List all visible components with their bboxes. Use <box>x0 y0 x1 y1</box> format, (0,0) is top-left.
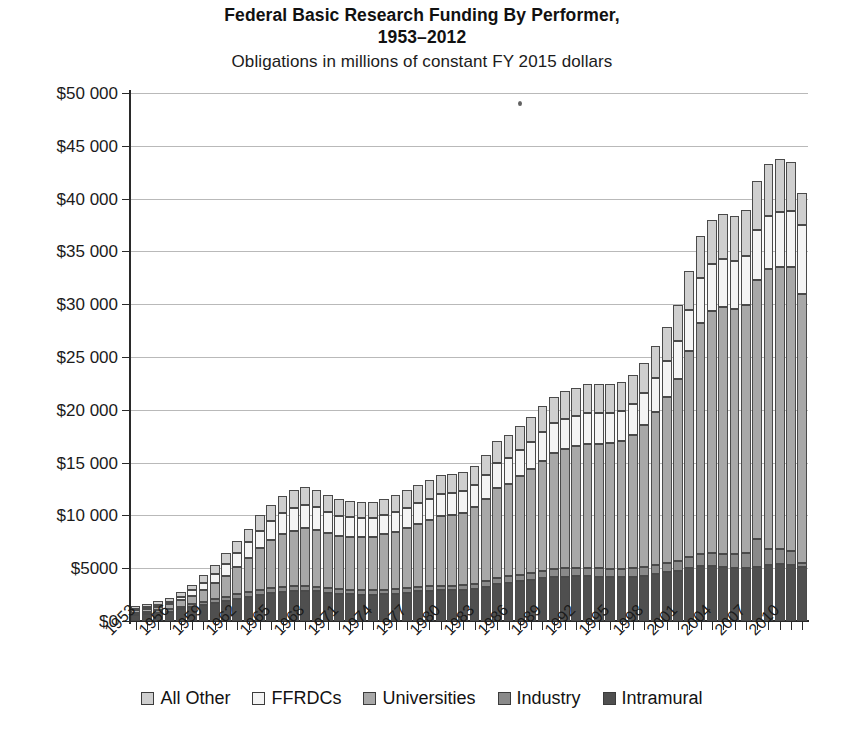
bar-segment-ffrdcs <box>379 515 389 534</box>
bar-column <box>221 93 231 621</box>
bar-segment-ffrdcs <box>651 378 661 412</box>
y-axis-tick-label: $10 000 <box>18 507 118 524</box>
bar-column <box>730 93 740 621</box>
legend-swatch-icon <box>603 692 616 705</box>
legend-item-all-other[interactable]: All Other <box>141 689 230 707</box>
scan-speck <box>518 101 522 106</box>
bar-column <box>334 93 344 621</box>
bar-column <box>504 93 514 621</box>
bar-segment-all-other <box>639 363 649 393</box>
bar-segment-industry <box>323 588 333 593</box>
bar-segment-all-other <box>300 487 310 505</box>
bar-column <box>594 93 604 621</box>
x-axis-tick <box>780 621 781 630</box>
bar-segment-industry <box>357 590 367 594</box>
bar-segment-all-other <box>379 499 389 515</box>
bar-column <box>752 93 762 621</box>
bar-segment-all-other <box>549 397 559 424</box>
bar-segment-industry <box>684 557 694 568</box>
bar-segment-industry <box>515 575 525 582</box>
bar-segment-all-other <box>515 426 525 450</box>
bar-segment-ffrdcs <box>673 341 683 379</box>
bar-segment-universities <box>617 441 627 569</box>
bar-segment-universities <box>210 583 220 599</box>
bar-segment-universities <box>425 520 435 587</box>
legend-item-industry[interactable]: Industry <box>498 689 581 707</box>
bar-segment-all-other <box>470 466 480 486</box>
bar-column <box>413 93 423 621</box>
bar-segment-universities <box>176 600 186 606</box>
bar-segment-all-other <box>764 164 774 216</box>
bar-segment-universities <box>300 528 310 586</box>
bar-segment-universities <box>571 446 581 567</box>
bar-segment-universities <box>323 533 333 588</box>
bar-segment-industry <box>639 567 649 576</box>
bar-segment-industry <box>413 587 423 592</box>
bar-segment-universities <box>730 309 740 554</box>
bar-segment-universities <box>312 530 322 587</box>
bar-segment-industry <box>458 585 468 590</box>
bar-segment-all-other <box>617 382 627 411</box>
bar-segment-all-other <box>504 435 514 458</box>
legend-swatch-icon <box>363 692 376 705</box>
bar-segment-industry <box>289 586 299 591</box>
bar-segment-universities <box>266 540 276 588</box>
chart-legend: All OtherFFRDCsUniversitiesIndustryIntra… <box>0 689 844 707</box>
bar-segment-industry <box>605 569 615 577</box>
bar-segment-all-other <box>583 384 593 413</box>
bar-segment-universities <box>447 515 457 586</box>
bar-segment-universities <box>662 397 672 563</box>
bar-segment-ffrdcs <box>515 450 525 476</box>
bar-segment-industry <box>402 588 412 592</box>
bar-segment-ffrdcs <box>594 413 604 444</box>
bar-segment-universities <box>413 524 423 587</box>
bar-segment-all-other <box>797 193 807 225</box>
bar-segment-universities <box>232 567 242 594</box>
legend-swatch-icon <box>252 692 265 705</box>
legend-item-universities[interactable]: Universities <box>363 689 475 707</box>
bar-segment-ffrdcs <box>357 518 367 537</box>
bar-segment-industry <box>617 569 627 577</box>
bar-segment-ffrdcs <box>425 499 435 520</box>
bar-segment-ffrdcs <box>323 512 333 533</box>
bar-segment-industry <box>764 549 774 565</box>
bar-segment-all-other <box>278 496 288 513</box>
bar-segment-universities <box>199 590 209 602</box>
bar-segment-universities <box>289 531 299 587</box>
bar-segment-industry <box>199 602 209 605</box>
bar-segment-ffrdcs <box>605 413 615 444</box>
bar-segment-industry <box>752 539 762 566</box>
bar-segment-all-other <box>436 475 446 494</box>
bar-segment-ffrdcs <box>560 419 570 449</box>
bar-segment-industry <box>594 568 604 576</box>
bar-segment-universities <box>673 379 683 561</box>
bar-segment-all-other <box>176 592 186 597</box>
bar-column <box>289 93 299 621</box>
bar-column <box>764 93 774 621</box>
bar-segment-all-other <box>391 495 401 512</box>
bar-segment-all-other <box>244 529 254 543</box>
bar-segment-all-other <box>312 490 322 508</box>
y-axis-tick-label: $45 000 <box>18 138 118 155</box>
bar-segment-industry <box>232 594 242 599</box>
bar-segment-ffrdcs <box>526 442 536 469</box>
bar-segment-industry <box>470 584 480 589</box>
bar-segment-industry <box>221 597 231 601</box>
bar-column <box>278 93 288 621</box>
legend-item-intramural[interactable]: Intramural <box>603 689 703 707</box>
bar-segment-all-other <box>323 495 333 512</box>
y-axis-tick-label: $25 000 <box>18 349 118 366</box>
bar-segment-all-other <box>447 474 457 493</box>
bar-segment-ffrdcs <box>538 432 548 461</box>
bar-segment-ffrdcs <box>470 485 480 507</box>
bar-segment-universities <box>628 435 638 568</box>
bar-column <box>662 93 672 621</box>
legend-item-ffrdcs[interactable]: FFRDCs <box>252 689 341 707</box>
chart-subtitle: Obligations in millions of constant FY 2… <box>0 50 844 74</box>
bar-segment-ffrdcs <box>368 518 378 537</box>
x-axis-tick <box>802 621 803 630</box>
bar-segment-all-other <box>142 604 152 607</box>
bar-segment-ffrdcs <box>696 278 706 322</box>
bar-segment-ffrdcs <box>266 521 276 541</box>
bar-segment-industry <box>244 592 254 597</box>
